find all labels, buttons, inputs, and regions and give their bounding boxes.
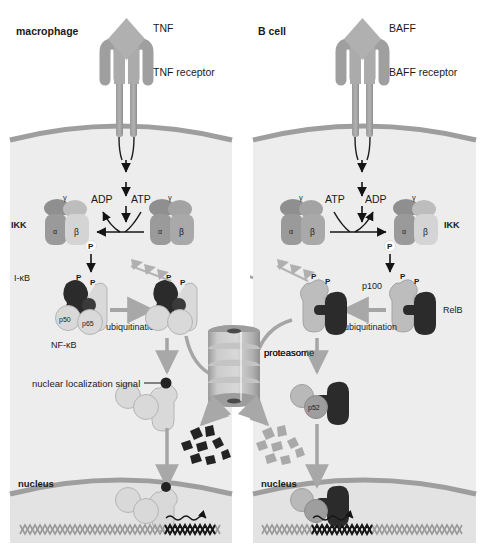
ikk-alpha-label-active-r: α xyxy=(402,228,406,235)
nucleotide-atp-left: ATP xyxy=(131,193,151,205)
p50-label-left: p50 xyxy=(59,316,71,324)
ubiquitination-label-right: ubiquitination xyxy=(344,322,397,332)
phospho-label-p100-r1: P xyxy=(400,272,406,281)
ligand-label-tnf: TNF xyxy=(153,22,173,34)
ikk-label-right: IKK xyxy=(444,220,460,230)
p65-circle-free-left xyxy=(134,395,159,420)
phospho-label-p100-ubr2: P xyxy=(325,277,331,286)
cell-label-bcell: B cell xyxy=(258,25,286,37)
phospho-label-ikb-l1: P xyxy=(76,273,82,282)
pathway-diagram: macrophage TNF TNF receptor B cell BAFF … xyxy=(0,0,487,554)
p50-subunit-ub-left xyxy=(146,306,171,331)
nls-marker-nuclear-left xyxy=(161,482,171,492)
receptor-label-left: TNF receptor xyxy=(153,66,215,78)
ikk-beta-label-active-l: β xyxy=(74,227,79,237)
ikk-label-left: IKK xyxy=(11,220,27,230)
p100-label-right: p100 xyxy=(362,281,382,291)
ikk-alpha-label-inactive-l: α xyxy=(158,228,162,235)
panel-divider xyxy=(236,0,250,554)
nucleotide-adp-left: ADP xyxy=(91,193,113,205)
proteasome-overlay xyxy=(208,325,260,407)
nucleotide-atp-right: ATP xyxy=(325,193,345,205)
relb-label-right: RelB xyxy=(443,305,463,315)
ikb-label-left: I-κB xyxy=(14,273,30,283)
ikk-alpha-label-active-l: α xyxy=(53,228,57,235)
nls-label: nuclear localization signal xyxy=(32,378,140,389)
ligand-label-baff: BAFF xyxy=(389,22,416,34)
p65-circle-nuclear-left xyxy=(134,499,159,524)
nucleus-label-right: nucleus xyxy=(261,478,297,489)
p52-nuclear-b-right xyxy=(305,500,328,523)
receptor-label-right: BAFF receptor xyxy=(389,66,458,78)
p65-label-left: p65 xyxy=(82,320,94,328)
p65-subunit-ub-left xyxy=(168,310,193,335)
ikk-gamma-label-active-r: γ xyxy=(412,193,416,202)
nls-marker-left xyxy=(161,378,172,389)
p52-label-right: p52 xyxy=(308,404,320,412)
phospho-label-ikk-r: P xyxy=(387,242,393,251)
cell-label-macrophage: macrophage xyxy=(16,25,79,37)
ikk-gamma-label-active-l: γ xyxy=(63,193,67,202)
ikk-alpha-label-inactive-r: α xyxy=(289,228,293,235)
nfkb-label-left: NF-κB xyxy=(51,340,77,350)
ikk-gamma-label-inactive-r: γ xyxy=(299,193,303,202)
ikk-gamma-label-inactive-l: γ xyxy=(168,193,172,202)
ikk-beta-label-inactive-l: β xyxy=(179,227,184,237)
ikk-beta-label-active-r: β xyxy=(423,227,428,237)
phospho-label-ikk-l: P xyxy=(88,242,94,251)
proteasome-label-overlay: proteasome xyxy=(264,347,314,358)
phospho-label-ikb-l2: P xyxy=(90,278,96,287)
nucleus-label-left: nucleus xyxy=(18,478,54,489)
phospho-label-p100-r2: P xyxy=(414,277,420,286)
phospho-label-ikb-ubl2: P xyxy=(180,278,186,287)
figure-canvas: macrophage TNF TNF receptor B cell BAFF … xyxy=(0,0,487,554)
ikk-beta-label-inactive-r: β xyxy=(310,227,315,237)
nucleotide-adp-right: ADP xyxy=(365,193,387,205)
